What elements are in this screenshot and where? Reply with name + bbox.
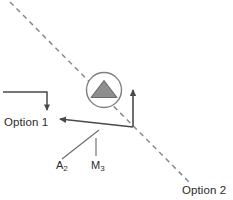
a2-leader-line xyxy=(62,130,99,159)
option-2-label: Option 2 xyxy=(182,185,226,197)
option-1-label: Option 1 xyxy=(4,117,48,129)
diagram-svg xyxy=(0,0,233,200)
diagonal-up-left-arrow xyxy=(60,119,133,127)
m3-base: M xyxy=(91,159,100,171)
a2-subscript: 2 xyxy=(63,164,67,173)
option-1-elbow-arrow xyxy=(3,92,47,110)
a2-label: A2 xyxy=(56,160,68,171)
m3-subscript: 3 xyxy=(100,164,104,173)
diagram-canvas: Option 1 Option 2 A2 M3 xyxy=(0,0,233,200)
m3-label: M3 xyxy=(91,160,105,171)
circle-triangle-icon[interactable] xyxy=(87,73,122,108)
